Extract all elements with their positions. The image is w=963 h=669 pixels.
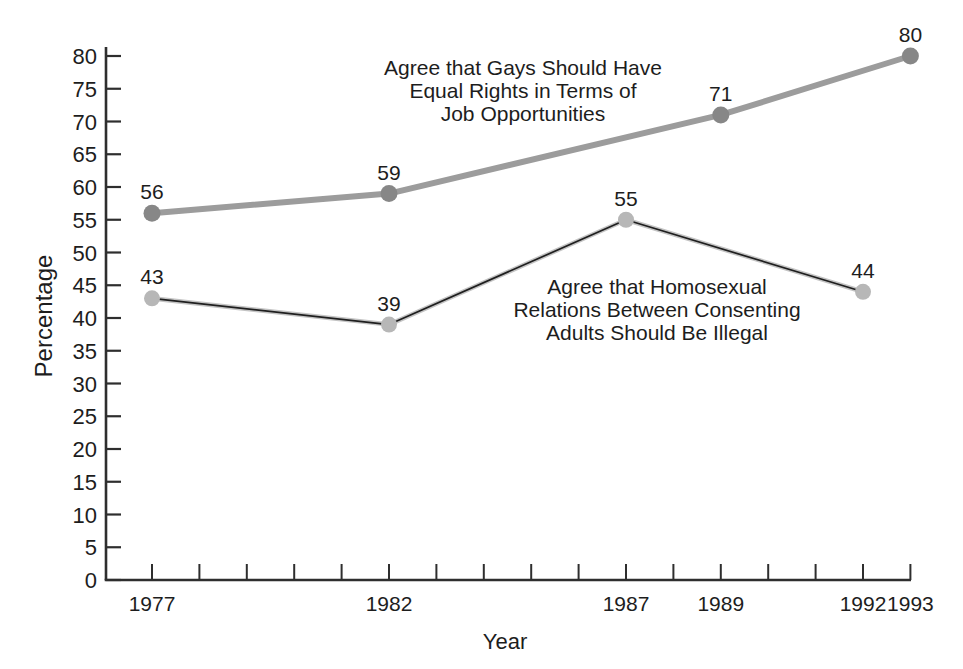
y-tick-label-15: 15 xyxy=(73,470,97,495)
data-label-illegal-1977: 43 xyxy=(140,265,163,288)
y-tick-label-30: 30 xyxy=(73,372,97,397)
y-tick-label-70: 70 xyxy=(73,110,97,135)
chart-figure: 0510152025303540455055606570758019771982… xyxy=(0,0,963,669)
data-point-equal-rights-1993 xyxy=(902,48,919,65)
y-tick-label-40: 40 xyxy=(73,306,97,331)
data-label-illegal-1987: 55 xyxy=(614,187,637,210)
y-tick-label-55: 55 xyxy=(73,208,97,233)
x-tick-label-1993: 1993 xyxy=(887,592,934,615)
y-tick-label-80: 80 xyxy=(73,44,97,69)
data-label-illegal-1992: 44 xyxy=(851,259,875,282)
data-point-illegal-1987 xyxy=(618,212,634,228)
series-label-equal-rights-line3: Job Opportunities xyxy=(384,102,662,125)
y-tick-label-20: 20 xyxy=(73,437,97,462)
x-tick-label-1989: 1989 xyxy=(697,592,744,615)
y-tick-label-65: 65 xyxy=(73,142,97,167)
y-tick-label-50: 50 xyxy=(73,241,97,266)
x-axis-title: Year xyxy=(483,629,527,655)
data-point-equal-rights-1989 xyxy=(712,106,729,123)
data-point-equal-rights-1977 xyxy=(144,205,161,222)
series-label-illegal-line3: Adults Should Be Illegal xyxy=(513,321,800,344)
y-tick-label-25: 25 xyxy=(73,404,97,429)
y-tick-label-60: 60 xyxy=(73,175,97,200)
y-tick-label-75: 75 xyxy=(73,77,97,102)
data-point-equal-rights-1982 xyxy=(381,185,398,202)
data-label-equal-rights-1977: 56 xyxy=(140,180,163,203)
data-label-equal-rights-1993: 80 xyxy=(899,23,922,46)
series-label-equal-rights-line2: Equal Rights in Terms of xyxy=(384,79,662,102)
y-tick-label-45: 45 xyxy=(73,273,97,298)
x-tick-label-1987: 1987 xyxy=(603,592,650,615)
data-label-illegal-1982: 39 xyxy=(377,292,400,315)
x-tick-label-1977: 1977 xyxy=(129,592,176,615)
y-tick-label-5: 5 xyxy=(85,535,97,560)
data-point-illegal-1992 xyxy=(855,284,871,300)
y-tick-label-10: 10 xyxy=(73,503,97,528)
data-label-equal-rights-1982: 59 xyxy=(377,161,400,184)
data-point-illegal-1977 xyxy=(144,290,160,306)
series-label-equal-rights-line1: Agree that Gays Should Have xyxy=(384,56,662,79)
series-label-illegal-line1: Agree that Homosexual xyxy=(513,275,800,298)
series-label-illegal: Agree that Homosexual Relations Between … xyxy=(513,275,800,344)
x-tick-label-1982: 1982 xyxy=(366,592,413,615)
y-tick-label-35: 35 xyxy=(73,339,97,364)
x-tick-label-1992: 1992 xyxy=(840,592,887,615)
data-point-illegal-1982 xyxy=(381,317,397,333)
series-label-illegal-line2: Relations Between Consenting xyxy=(513,298,800,321)
y-axis-title: Percentage xyxy=(30,255,58,378)
series-label-equal-rights: Agree that Gays Should Have Equal Rights… xyxy=(384,56,662,125)
y-tick-label-0: 0 xyxy=(85,568,97,593)
data-label-equal-rights-1989: 71 xyxy=(709,82,732,105)
